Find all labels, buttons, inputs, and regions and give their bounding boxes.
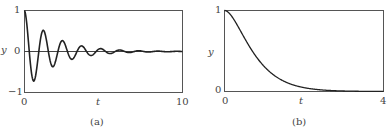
xtick-a-max: 10 (176, 97, 189, 107)
xtick-b-min: 0 (222, 96, 228, 106)
plot-frame-b (225, 11, 384, 92)
ylabel-b: y (208, 47, 214, 57)
xtick-a-min: 0 (21, 97, 27, 107)
ytick-b-bot: 0 (215, 85, 221, 95)
xlabel-b: t (299, 96, 303, 106)
plot-area-a (0, 0, 195, 131)
chart-panel-a: 1 0 −1 y 0 10 t (a) (0, 0, 195, 131)
curve-a (25, 11, 183, 82)
ytick-a-mid: 0 (14, 46, 20, 56)
plot-area-b (195, 0, 389, 131)
ytick-b-top: 1 (215, 5, 221, 15)
ylabel-a: y (1, 45, 7, 55)
caption-a: (a) (90, 117, 104, 127)
chart-panel-b: 1 0 y 0 4 t (b) (195, 0, 389, 131)
xlabel-a: t (96, 97, 100, 107)
ytick-a-top: 1 (14, 5, 20, 15)
caption-b: (b) (292, 117, 306, 127)
xtick-b-max: 4 (380, 96, 386, 106)
curve-b (225, 11, 384, 92)
